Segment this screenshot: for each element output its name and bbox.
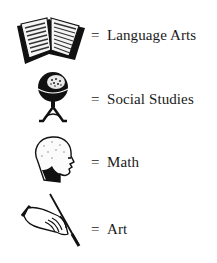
hand-holding-brush-icon <box>20 192 84 248</box>
subject-name: Language Arts <box>107 27 196 43</box>
legend-label: =Language Arts <box>91 27 196 44</box>
legend-item-social-studies: =Social Studies <box>0 66 217 128</box>
equals-sign: = <box>91 221 107 238</box>
subject-name: Social Studies <box>107 91 194 107</box>
open-book-icon <box>15 14 87 66</box>
legend-item-language-arts: =Language Arts <box>0 0 217 66</box>
equals-sign: = <box>91 27 107 44</box>
equals-sign: = <box>91 91 107 108</box>
subject-name: Art <box>107 221 127 237</box>
legend-item-art: =Art <box>0 190 217 263</box>
legend-item-math: =Math <box>0 128 217 190</box>
subject-name: Math <box>107 154 139 170</box>
legend-label: =Social Studies <box>91 91 194 108</box>
legend-label: =Math <box>91 154 139 171</box>
human-head-profile-icon <box>32 136 78 186</box>
equals-sign: = <box>91 154 107 171</box>
globe-icon <box>33 71 73 125</box>
legend-label: =Art <box>91 221 127 238</box>
